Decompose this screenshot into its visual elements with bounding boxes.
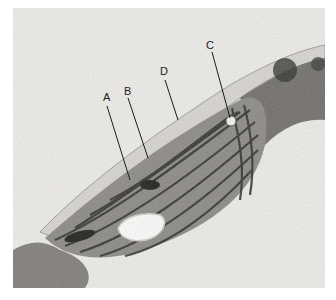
label-b: B xyxy=(124,86,131,97)
chloroplast-illustration xyxy=(13,8,325,288)
label-c: C xyxy=(206,40,214,51)
label-a: A xyxy=(103,92,110,103)
label-d: D xyxy=(160,66,168,77)
micrograph-image xyxy=(13,8,325,288)
